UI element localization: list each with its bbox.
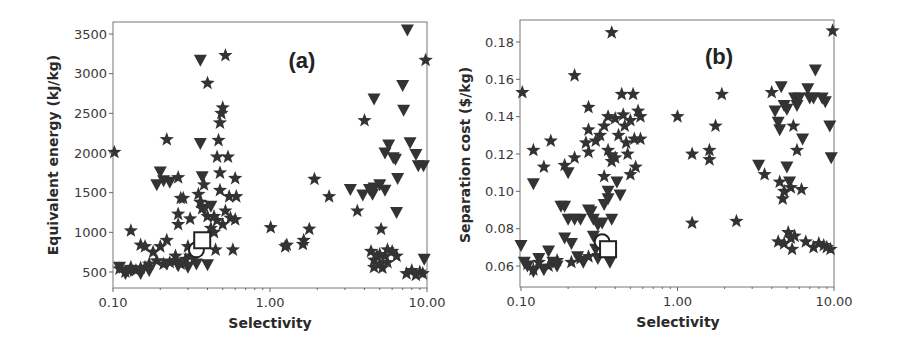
chart-b-separation-cost: 0.060.080.100.120.140.160.18 0.101.0010.… — [449, 0, 899, 343]
x-axis-ticks: 0.101.0010.00 — [507, 287, 853, 309]
x-axis-label: Selectivity — [228, 315, 311, 331]
plot-area: 0.060.080.100.120.140.160.18 0.101.0010.… — [485, 20, 853, 309]
y-tick-label: 500 — [82, 265, 107, 280]
y-tick-label: 0.12 — [485, 147, 514, 162]
y-tick-label: 0.18 — [485, 35, 514, 50]
y-axis-ticks: 0.060.080.100.120.140.160.18 — [485, 35, 520, 274]
plot-area: 500100015002000250030003500 0.101.0010.0… — [74, 22, 446, 310]
y-tick-label: 0.14 — [485, 109, 514, 124]
x-tick-label: 1.00 — [256, 295, 285, 310]
y-axis-label: Equivalent energy (kJ/kg) — [45, 55, 61, 255]
y-tick-label: 0.10 — [485, 184, 514, 199]
x-axis-ticks: 0.101.0010.00 — [99, 288, 446, 310]
y-tick-label: 0.06 — [485, 259, 514, 274]
x-tick-label: 10.00 — [408, 295, 445, 310]
panel-label: (b) — [705, 44, 733, 69]
panel-label: (a) — [289, 48, 316, 73]
square-marker — [194, 232, 210, 248]
y-tick-label: 2500 — [74, 106, 107, 121]
square-marker — [600, 241, 616, 257]
y-tick-label: 2000 — [74, 146, 107, 161]
x-axis-label: Selectivity — [636, 314, 719, 330]
y-tick-label: 3500 — [74, 27, 107, 42]
x-tick-label: 0.10 — [99, 295, 128, 310]
x-tick-label: 1.00 — [663, 294, 692, 309]
y-tick-label: 1000 — [74, 225, 107, 240]
y-tick-label: 3000 — [74, 66, 107, 81]
y-axis-label: Separation cost ($/kg) — [457, 67, 473, 243]
chart-a-equivalent-energy: 500100015002000250030003500 0.101.0010.0… — [0, 0, 450, 343]
y-axis-ticks: 500100015002000250030003500 — [74, 27, 113, 280]
y-tick-label: 0.16 — [485, 72, 514, 87]
y-tick-label: 1500 — [74, 185, 107, 200]
x-tick-label: 0.10 — [507, 294, 536, 309]
y-tick-label: 0.08 — [485, 221, 514, 236]
x-tick-label: 10.00 — [815, 294, 852, 309]
